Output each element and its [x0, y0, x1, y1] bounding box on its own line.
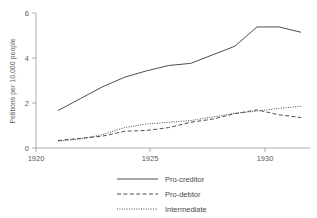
x-tick-label-1930: 1930: [257, 154, 274, 163]
y-tick-label-0: 0: [25, 144, 29, 153]
y-tick-label-4: 4: [25, 54, 29, 63]
legend-label-pro-creditor: Pro-creditor: [165, 175, 205, 184]
y-axis-title: Petitions per 10,000 people: [9, 38, 17, 123]
legend-label-intermediate: Intermediate: [165, 205, 207, 214]
x-tick-label-1925: 1925: [142, 154, 159, 163]
line-chart: 0 2 4 6 1920 1925 1930 Petitions per 10,…: [0, 0, 317, 218]
y-tick-label-2: 2: [25, 99, 29, 108]
chart-container: 0 2 4 6 1920 1925 1930 Petitions per 10,…: [0, 0, 317, 218]
x-tick-label-1920: 1920: [28, 154, 45, 163]
legend-label-pro-debtor: Pro-debtor: [165, 190, 201, 199]
y-tick-label-6: 6: [25, 9, 29, 18]
chart-background: [0, 0, 317, 218]
